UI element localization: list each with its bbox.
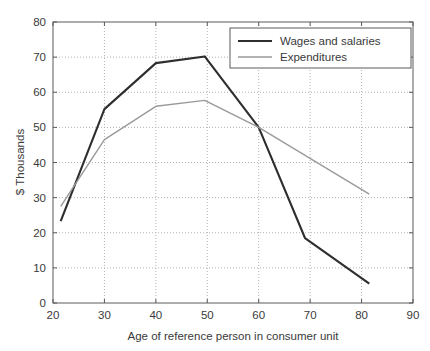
legend-label-expenditures: Expenditures [280,51,347,63]
y-tick-label: 30 [33,192,46,204]
line-chart: 2030405060708090 01020304050607080 Age o… [0,0,430,351]
y-axis-title: $ Thousands [14,129,26,196]
y-tick-label: 80 [33,16,46,28]
x-tick-label: 60 [252,309,265,321]
y-tick-labels: 01020304050607080 [33,16,46,309]
x-tick-label: 30 [98,309,111,321]
x-tick-label: 80 [355,309,368,321]
x-tick-label: 50 [201,309,214,321]
y-tick-label: 50 [33,121,46,133]
x-tick-label: 90 [407,309,420,321]
chart-figure: 2030405060708090 01020304050607080 Age o… [0,0,430,351]
y-tick-label: 40 [33,157,46,169]
x-tick-label: 40 [149,309,162,321]
chart-legend[interactable]: Wages and salaries Expenditures [230,28,411,68]
x-tick-label: 70 [304,309,317,321]
x-axis-title: Age of reference person in consumer unit [128,330,340,342]
y-tick-label: 10 [33,262,46,274]
y-tick-label: 20 [33,227,46,239]
y-tick-label: 60 [33,86,46,98]
y-tick-label: 0 [40,297,46,309]
y-tick-label: 70 [33,51,46,63]
x-tick-labels: 2030405060708090 [47,309,420,321]
legend-label-wages-and-salaries: Wages and salaries [280,35,381,47]
x-tick-label: 20 [47,309,60,321]
